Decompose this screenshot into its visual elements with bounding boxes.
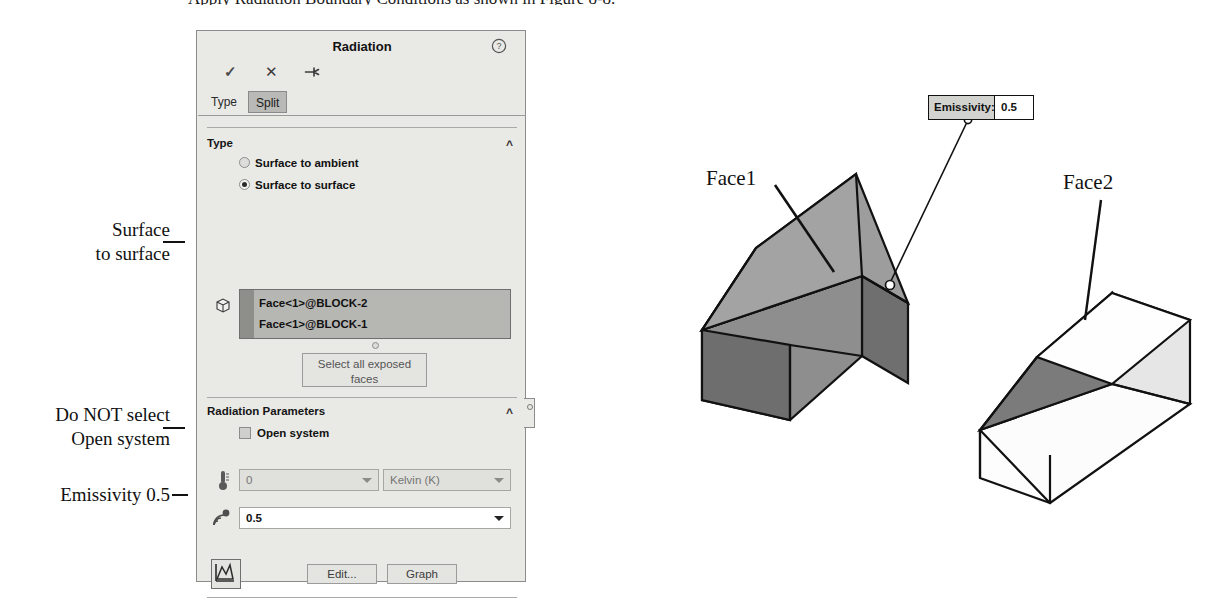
- block2-right-face: [1112, 293, 1190, 432]
- panel-side-tab-dot[interactable]: [527, 404, 533, 410]
- divider-top: [207, 127, 517, 128]
- open-system-label: Open system: [257, 427, 329, 439]
- cube-face-icon: [213, 295, 233, 315]
- block2-edges: [980, 357, 1190, 503]
- selected-faces-list-strip: [240, 290, 254, 338]
- block2-top-face: [1037, 293, 1190, 384]
- block1-front-face: [702, 276, 862, 420]
- callout-anchor-dot: [886, 281, 895, 290]
- tab-split[interactable]: Split: [248, 91, 287, 113]
- radiation-parameters-header[interactable]: Radiation Parameters ^: [207, 405, 517, 423]
- callout-leader: [890, 120, 968, 283]
- emissivity-callout-key: Emissivity:: [929, 96, 995, 119]
- face1-leader: [775, 185, 834, 272]
- page-caption: Apply Radiation Boundary Conditions as s…: [188, 0, 888, 5]
- block1-right-face: [862, 276, 908, 383]
- temperature-unit-select[interactable]: Kelvin (K): [383, 469, 511, 491]
- panel-side-tab[interactable]: [524, 398, 535, 428]
- list-resize-handle[interactable]: [372, 342, 379, 349]
- radiation-property-panel: Radiation ? ✓ ✕ Type Split Type ^ Surfac…: [196, 30, 526, 582]
- question-mark-circle-icon[interactable]: ?: [491, 38, 507, 54]
- panel-toolbar: ✓ ✕: [211, 63, 511, 85]
- annotation-leader-1: [163, 241, 185, 243]
- type-section-header[interactable]: Type ^: [207, 137, 517, 155]
- chevron-up-icon[interactable]: ^: [506, 406, 513, 420]
- divider-middle: [207, 397, 517, 398]
- chevron-down-icon[interactable]: [494, 516, 504, 521]
- list-item[interactable]: Face<1>@BLOCK-2: [259, 293, 367, 313]
- face2-leader: [1085, 200, 1101, 320]
- emissivity-callout: Emissivity: 0.5: [928, 95, 1034, 120]
- panel-title: Radiation: [197, 39, 527, 54]
- annotation-open-system-line2: Open system: [0, 427, 170, 451]
- chevron-up-icon[interactable]: ^: [506, 138, 513, 152]
- radio-surface-to-surface-label: Surface to surface: [255, 179, 355, 191]
- annotation-open-system-line1: Do NOT select: [0, 403, 170, 427]
- annotation-surface-to-surface: Surface to surface: [10, 218, 170, 266]
- open-system-checkbox[interactable]: Open system: [239, 427, 329, 445]
- close-x-icon[interactable]: ✕: [252, 63, 290, 81]
- push-pin-icon[interactable]: [293, 63, 331, 80]
- chevron-down-icon[interactable]: [494, 478, 504, 483]
- edit-button[interactable]: Edit...: [307, 564, 377, 584]
- block2-slant-face: [980, 293, 1112, 430]
- type-section-title: Type: [207, 137, 233, 149]
- block1-chamfer-face: [702, 174, 908, 330]
- svg-text:?: ?: [496, 41, 501, 51]
- select-all-exposed-faces-button[interactable]: Select all exposed faces: [302, 353, 427, 387]
- annotation-surface-to-surface-line2: to surface: [10, 242, 170, 266]
- block2-front-face: [980, 384, 1112, 503]
- drawing-canvas: [0, 0, 1211, 602]
- annotation-emissivity-line1: Emissivity 0.5: [0, 483, 170, 507]
- annotation-leader-3: [172, 494, 188, 496]
- divider-bottom: [207, 597, 517, 598]
- block1-top-left-face: [702, 174, 862, 330]
- annotation-surface-to-surface-line1: Surface: [10, 218, 170, 242]
- annotation-emissivity: Emissivity 0.5: [0, 483, 170, 507]
- face1-label: Face1: [706, 166, 756, 191]
- radio-surface-to-ambient[interactable]: Surface to ambient: [239, 157, 359, 175]
- face2-label: Face2: [1063, 170, 1113, 195]
- emissivity-value: 0.5: [246, 512, 262, 524]
- curve-graph-icon[interactable]: [211, 559, 241, 589]
- radiation-emissivity-icon: [211, 507, 231, 529]
- annotation-open-system: Do NOT select Open system: [0, 403, 170, 451]
- block1-left-face: [702, 330, 790, 420]
- radio-surface-to-ambient-label: Surface to ambient: [255, 157, 359, 169]
- emissivity-field[interactable]: 0.5: [239, 507, 511, 529]
- list-item[interactable]: Face<1>@BLOCK-1: [259, 314, 367, 334]
- ambient-temperature-value: 0: [246, 474, 252, 486]
- block2-bottom-face: [980, 384, 1190, 503]
- graph-button[interactable]: Graph: [387, 564, 457, 584]
- thermometer-icon: [213, 469, 233, 491]
- panel-tabs: Type Split: [198, 89, 526, 116]
- emissivity-callout-value: 0.5: [995, 96, 1039, 119]
- annotation-leader-2: [163, 427, 185, 429]
- radio-surface-to-surface[interactable]: Surface to surface: [239, 179, 355, 197]
- checkmark-icon[interactable]: ✓: [211, 63, 249, 81]
- temperature-unit-value: Kelvin (K): [390, 474, 440, 486]
- block1-edges: [702, 248, 908, 420]
- chevron-down-icon[interactable]: [362, 478, 372, 483]
- ambient-temperature-field[interactable]: 0: [239, 469, 379, 491]
- radiation-parameters-title: Radiation Parameters: [207, 405, 325, 417]
- tab-type[interactable]: Type: [204, 91, 244, 113]
